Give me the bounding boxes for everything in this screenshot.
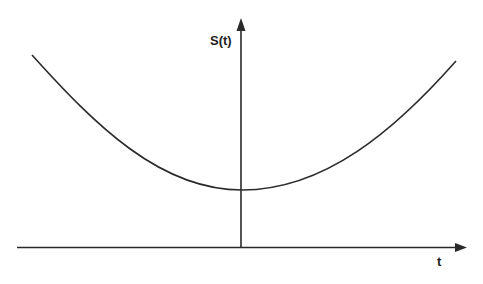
s-curve	[32, 55, 456, 190]
t-axis-arrow-icon	[455, 243, 467, 252]
x-axis-label: t	[437, 254, 441, 269]
y-axis-label: S(t)	[210, 33, 232, 48]
diagram-canvas	[0, 0, 483, 284]
s-axis-arrow-icon	[237, 18, 246, 31]
